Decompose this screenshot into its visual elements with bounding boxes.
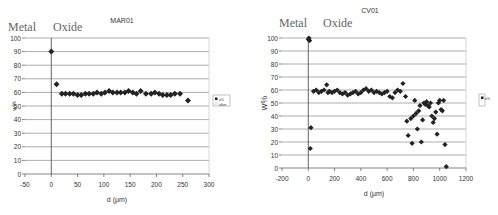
data-point <box>143 91 149 97</box>
data-point <box>433 110 438 115</box>
legend-label: offset <box>219 103 226 107</box>
y-tick-label: 100 <box>10 35 21 42</box>
data-point <box>400 81 405 86</box>
annotation-oxide: Oxide <box>53 20 82 34</box>
data-point <box>324 82 329 87</box>
y-tick-label: 70 <box>271 74 279 81</box>
x-tick-label: 50 <box>74 181 82 188</box>
chart-mar01-plot: MAR01MetalOxide0102030405060708090100-50… <box>0 0 250 215</box>
x-axis-label: d (µm) <box>107 196 127 204</box>
data-point <box>419 139 424 144</box>
data-point <box>434 132 439 137</box>
x-tick-label: 0 <box>49 181 53 188</box>
x-tick-label: 0 <box>306 175 310 182</box>
data-point <box>415 126 420 131</box>
y-tick-label: 0 <box>274 165 278 172</box>
y-tick-label: 40 <box>14 116 22 123</box>
data-point <box>441 98 446 103</box>
y-tick-label: 10 <box>271 152 279 159</box>
data-point <box>54 81 60 87</box>
y-tick-label: 90 <box>271 48 279 55</box>
x-tick-label: -200 <box>275 175 288 182</box>
data-point <box>308 125 313 130</box>
data-point <box>404 119 409 124</box>
y-tick-label: 100 <box>267 35 278 42</box>
x-tick-label: 800 <box>408 175 419 182</box>
data-point <box>444 164 449 169</box>
chart-mar01: MAR01MetalOxide0102030405060708090100-50… <box>0 0 250 215</box>
chart-cv01: CV01MetalOxide0102030405060708090100-200… <box>250 0 498 215</box>
legend-label: w% <box>219 98 224 102</box>
y-tick-label: 70 <box>14 75 22 82</box>
y-tick-label: 20 <box>271 139 279 146</box>
x-tick-label: 1000 <box>432 175 447 182</box>
data-point <box>177 91 183 97</box>
data-point <box>410 141 415 146</box>
annotation-metal: Metal <box>8 20 37 34</box>
y-axis-label: w% <box>11 101 17 112</box>
annotation-metal: Metal <box>279 16 308 30</box>
data-point <box>48 49 54 55</box>
x-tick-label: 1200 <box>459 175 474 182</box>
x-tick-label: 200 <box>329 175 340 182</box>
y-tick-label: 10 <box>14 157 22 164</box>
y-tick-label: 40 <box>271 113 279 120</box>
x-tick-label: 300 <box>204 181 215 188</box>
y-tick-label: 60 <box>271 87 279 94</box>
y-tick-label: 50 <box>271 100 279 107</box>
y-tick-label: 90 <box>14 48 22 55</box>
x-tick-label: 200 <box>151 181 162 188</box>
legend-marker <box>481 97 484 100</box>
y-tick-label: 60 <box>14 89 22 96</box>
legend-marker <box>215 98 218 101</box>
y-tick-label: 80 <box>271 61 279 68</box>
data-point <box>412 98 417 103</box>
x-tick-label: 600 <box>382 175 393 182</box>
y-tick-label: 0 <box>17 171 21 178</box>
x-tick-label: 100 <box>98 181 109 188</box>
x-axis-label: d (µm) <box>364 190 384 198</box>
data-point <box>185 98 191 104</box>
y-tick-label: 30 <box>14 130 22 137</box>
data-point <box>417 103 422 108</box>
data-point <box>442 142 447 147</box>
x-tick-label: 150 <box>125 181 136 188</box>
y-axis-label: w% <box>259 96 269 112</box>
x-tick-label: 400 <box>355 175 366 182</box>
y-tick-label: 20 <box>14 143 22 150</box>
data-point <box>406 133 411 138</box>
chart-title: CV01 <box>361 7 379 14</box>
annotation-oxide: Oxide <box>323 16 352 30</box>
data-point <box>420 117 425 122</box>
data-point <box>403 94 408 99</box>
y-tick-label: 30 <box>271 126 279 133</box>
chart-cv01-plot: CV01MetalOxide0102030405060708090100-200… <box>250 0 498 215</box>
x-tick-label: -50 <box>20 181 30 188</box>
legend-label: w% <box>485 97 490 101</box>
x-tick-label: 250 <box>177 181 188 188</box>
chart-title: MAR01 <box>110 17 133 24</box>
y-tick-label: 80 <box>14 62 22 69</box>
